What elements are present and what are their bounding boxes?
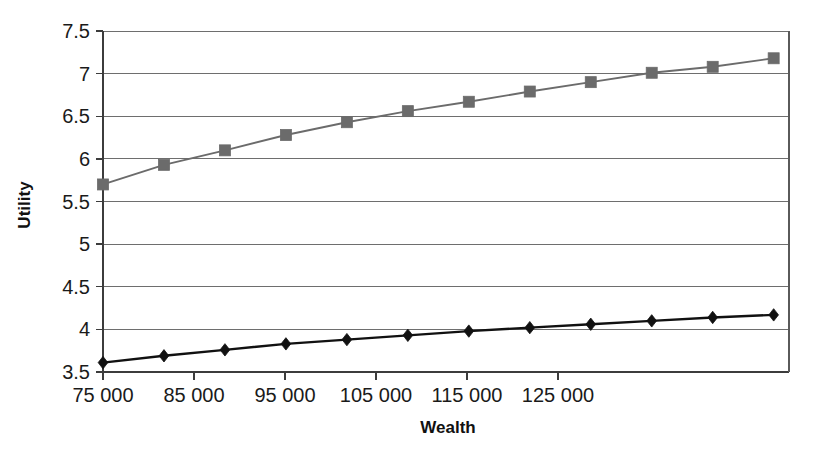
x-tick-label: 85 000 xyxy=(163,384,224,406)
data-point-marker xyxy=(524,86,535,97)
x-tick-label: 125 000 xyxy=(522,384,594,406)
x-tick-label: 75 000 xyxy=(72,384,133,406)
y-tick-label: 5.5 xyxy=(62,191,90,213)
data-point-marker xyxy=(707,61,718,72)
y-tick-label: 5 xyxy=(79,233,90,255)
data-point-marker xyxy=(219,145,230,156)
x-tick-label: 95 000 xyxy=(254,384,315,406)
data-point-marker xyxy=(768,53,779,64)
data-point-marker xyxy=(646,67,657,78)
data-point-marker xyxy=(402,106,413,117)
y-tick-label: 6.5 xyxy=(62,105,90,127)
utility-vs-wealth-line-chart: 3.544.555.566.577.5 75 00085 00095 00010… xyxy=(0,0,822,461)
y-tick-label: 3.5 xyxy=(62,361,90,383)
data-point-marker xyxy=(158,159,169,170)
data-point-marker xyxy=(280,130,291,141)
data-point-marker xyxy=(463,96,474,107)
y-tick-label: 4.5 xyxy=(62,276,90,298)
data-point-marker xyxy=(585,77,596,88)
y-axis-title: Utility xyxy=(15,181,34,229)
y-tick-label: 7.5 xyxy=(62,20,90,42)
y-tick-label: 4 xyxy=(79,318,90,340)
y-tick-label: 6 xyxy=(79,148,90,170)
data-point-marker xyxy=(341,117,352,128)
x-tick-label: 105 000 xyxy=(340,384,412,406)
x-tick-label: 115 000 xyxy=(432,384,503,406)
y-tick-label: 7 xyxy=(79,63,90,85)
x-axis-title: Wealth xyxy=(420,418,475,437)
data-point-marker xyxy=(98,179,109,190)
chart-figure: 3.544.555.566.577.5 75 00085 00095 00010… xyxy=(0,0,822,461)
